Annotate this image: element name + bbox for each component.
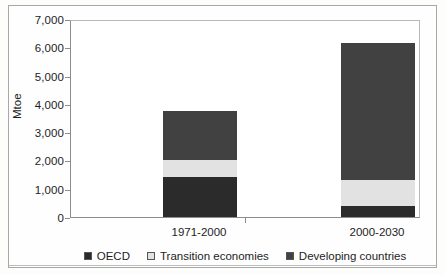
legend-label: Transition economies bbox=[160, 250, 269, 262]
y-axis-tick-label: 6,000 bbox=[8, 42, 64, 54]
bar-2000-2030 bbox=[341, 43, 415, 217]
legend-item-developing-countries[interactable]: Developing countries bbox=[286, 250, 406, 262]
x-axis-tick-label: 2000-2030 bbox=[307, 226, 446, 238]
legend-label: OECD bbox=[97, 250, 130, 262]
bar-segment-transition-economies bbox=[341, 180, 415, 205]
legend-divider bbox=[9, 265, 436, 266]
bar-segment-developing-countries bbox=[163, 111, 237, 160]
bar-1971-2000 bbox=[163, 111, 237, 217]
x-axis-tick-mark bbox=[245, 218, 246, 223]
legend-swatch-icon bbox=[147, 252, 155, 260]
y-axis-tick-label: 2,000 bbox=[8, 155, 64, 167]
bar-segment-oecd bbox=[341, 206, 415, 217]
legend-item-oecd[interactable]: OECD bbox=[84, 250, 130, 262]
y-axis-tick-label: 5,000 bbox=[8, 71, 64, 83]
y-axis-tick-label: 0 bbox=[8, 212, 64, 224]
plot-area bbox=[70, 20, 420, 218]
x-axis-tick-label: 1971-2000 bbox=[129, 226, 269, 238]
y-axis-tick-label: 1,000 bbox=[8, 184, 64, 196]
chart-legend: OECDTransition economiesDeveloping count… bbox=[70, 250, 420, 262]
legend-swatch-icon bbox=[286, 252, 294, 260]
chart-page: Mtoe 7,0006,0005,0004,0003,0002,0001,000… bbox=[0, 0, 446, 275]
bar-segment-transition-economies bbox=[163, 160, 237, 178]
legend-item-transition-economies[interactable]: Transition economies bbox=[147, 250, 269, 262]
y-axis-tick-label: 4,000 bbox=[8, 99, 64, 111]
legend-swatch-icon bbox=[84, 252, 92, 260]
y-axis-tick-mark bbox=[65, 218, 70, 219]
y-axis-tick-label: 3,000 bbox=[8, 127, 64, 139]
y-axis-tick-label: 7,000 bbox=[8, 14, 64, 26]
bar-segment-developing-countries bbox=[341, 43, 415, 180]
bar-segment-oecd bbox=[163, 177, 237, 217]
legend-label: Developing countries bbox=[299, 250, 406, 262]
